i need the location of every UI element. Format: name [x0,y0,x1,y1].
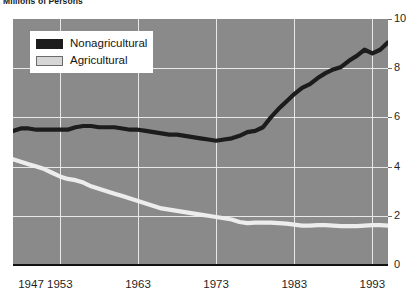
y-tick-label-6: 6 [394,111,400,122]
chart-legend: Nonagricultural Agricultural [30,31,153,73]
y-tick-label-8: 8 [394,62,400,73]
x-axis-line [13,264,388,266]
legend-swatch-icon-nonagricultural [36,39,63,49]
y-tick-mark-4 [388,167,392,168]
y-tick-mark-10 [388,19,392,20]
legend-item-nonagricultural: Nonagricultural [36,35,144,52]
y-tick-label-0: 0 [394,259,400,270]
legend-item-agricultural: Agricultural [36,52,144,69]
y-tick-mark-8 [388,68,392,69]
y-tick-label-2: 2 [394,210,400,221]
y-tick-mark-6 [388,117,392,118]
x-tick-label-1973: 1973 [203,278,229,290]
x-tick-label-1947: 1947 [18,278,44,290]
plot-area: Nonagricultural Agricultural [13,19,388,265]
chart-title: Millions of Persons [3,0,83,6]
legend-swatch-icon-agricultural [36,56,63,66]
x-tick-label-1963: 1963 [125,278,151,290]
line-agricultural [13,159,388,226]
x-tick-label-1983: 1983 [281,278,307,290]
x-tick-label-1953: 1953 [47,278,73,290]
y-tick-mark-2 [388,216,392,217]
y-tick-label-10: 10 [394,13,406,24]
legend-label-nonagricultural: Nonagricultural [70,37,147,50]
chart-figure: Millions of Persons Nonagricultural Agri… [0,0,419,303]
legend-label-agricultural: Agricultural [70,54,128,67]
x-tick-label-1993: 1993 [360,278,386,290]
y-tick-label-4: 4 [394,161,400,172]
